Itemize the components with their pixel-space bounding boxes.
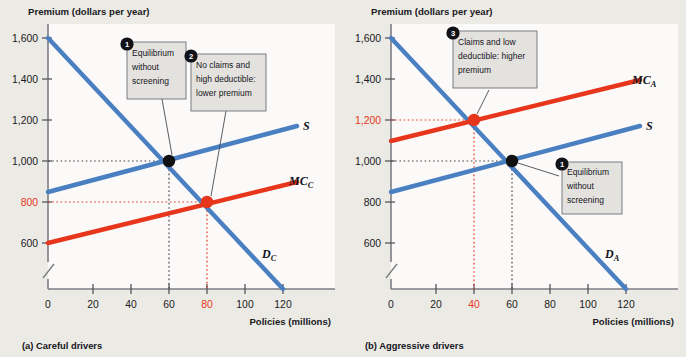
panel-b-point-claims-low-deductible bbox=[468, 114, 480, 126]
panel-b-y-axis-title: Premium (dollars per year) bbox=[371, 6, 493, 17]
panel-a-x-tick-0: 0 bbox=[45, 299, 51, 310]
panel-b-y-tick-1000: 1,000 bbox=[355, 156, 381, 167]
panel-a-x-tick-40: 40 bbox=[125, 299, 137, 310]
panel-b-y-tick-600: 600 bbox=[364, 238, 382, 249]
panel-b-callout-1: Equilibrium without screening 1 bbox=[555, 157, 622, 214]
panel-b-badge-3-number: 3 bbox=[451, 29, 455, 38]
panel-a-y-axis-title: Premium (dollars per year) bbox=[28, 6, 150, 17]
panel-b-y-tick-800: 800 bbox=[364, 197, 382, 208]
panel-a-y-tick-800: 800 bbox=[21, 197, 39, 208]
panel-b-callout-3: Claims and low deductible: higher premiu… bbox=[446, 26, 537, 88]
panel-aggressive-drivers: Premium (dollars per year) 600 800 1,000… bbox=[343, 0, 686, 357]
panel-a-y-tick-1400: 1,400 bbox=[12, 74, 38, 85]
panel-a-callout-1-line-1: Equilibrium bbox=[132, 48, 174, 58]
panel-b-point-equilibrium bbox=[506, 155, 518, 167]
panel-b-x-tick-120: 120 bbox=[617, 299, 635, 310]
panel-a-callout-1-line-3: screening bbox=[132, 76, 169, 86]
panel-a-callout-2-line-1: No claims and bbox=[196, 60, 250, 70]
panel-a-y-tick-1600: 1,600 bbox=[12, 33, 38, 44]
panel-a-point-equilibrium bbox=[163, 155, 175, 167]
panel-a-callout-2-line-2: high deductible: bbox=[196, 74, 256, 84]
panel-b-callout-3-line-3: premium bbox=[458, 65, 491, 75]
panel-b-label-supply: S bbox=[646, 119, 653, 133]
economics-figure: Premium (dollars per year) 600 800 1,000… bbox=[0, 0, 686, 357]
panel-a-caption: (a) Careful drivers bbox=[22, 340, 102, 351]
panel-a-y-tick-1200: 1,200 bbox=[12, 115, 38, 126]
panel-a-x-tick-80: 80 bbox=[201, 299, 213, 310]
panel-b-callout-3-line-2: deductible: higher bbox=[458, 51, 525, 61]
panel-a-point-no-claims bbox=[201, 196, 213, 208]
panel-b-y-tick-1200: 1,200 bbox=[355, 115, 381, 126]
panel-b-callout-1-line-3: screening bbox=[567, 195, 604, 205]
panel-b-x-tick-40: 40 bbox=[468, 299, 480, 310]
panel-careful-drivers: Premium (dollars per year) 600 800 1,000… bbox=[0, 0, 343, 357]
panel-a-callout-2-line-3: lower premium bbox=[196, 88, 252, 98]
panel-a-y-tick-1000: 1,000 bbox=[12, 156, 38, 167]
panel-a-callout-2: No claims and high deductible: lower pre… bbox=[184, 49, 266, 111]
panel-b-callout-1-line-1: Equilibrium bbox=[567, 167, 609, 177]
panel-b-x-tick-80: 80 bbox=[544, 299, 556, 310]
panel-a-x-axis-title: Policies (millions) bbox=[249, 316, 331, 327]
panel-b-x-tick-100: 100 bbox=[579, 299, 597, 310]
panel-a-x-tick-20: 20 bbox=[87, 299, 99, 310]
panel-b-callout-3-line-1: Claims and low bbox=[458, 37, 516, 47]
panel-b-caption: (b) Aggressive drivers bbox=[365, 340, 464, 351]
panel-b-callout-1-line-2: without bbox=[566, 181, 595, 191]
panel-a-y-tick-600: 600 bbox=[21, 238, 39, 249]
panel-a-callout-1-line-2: without bbox=[131, 62, 160, 72]
panel-b-y-tick-1600: 1,600 bbox=[355, 33, 381, 44]
panel-a-x-tick-100: 100 bbox=[236, 299, 254, 310]
panel-b-x-tick-60: 60 bbox=[506, 299, 518, 310]
panel-a-x-tick-120: 120 bbox=[274, 299, 292, 310]
panel-a-callout-1: Equilibrium without screening 1 bbox=[120, 37, 186, 99]
panel-a-badge-2-number: 2 bbox=[189, 52, 193, 61]
panel-b-x-tick-20: 20 bbox=[430, 299, 442, 310]
panel-a-label-supply: S bbox=[303, 119, 310, 133]
panel-a-x-tick-60: 60 bbox=[163, 299, 175, 310]
panel-b-x-tick-0: 0 bbox=[388, 299, 394, 310]
panel-b-y-tick-1400: 1,400 bbox=[355, 74, 381, 85]
panel-b-x-axis-title: Policies (millions) bbox=[592, 316, 674, 327]
